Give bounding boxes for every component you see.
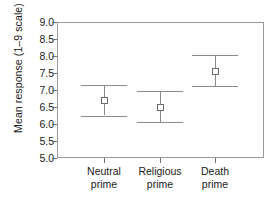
- y-tick-label: 6.0: [22, 119, 54, 130]
- y-tick-label: 5.5: [22, 136, 54, 147]
- y-tick-label: 7.5: [22, 68, 54, 79]
- plot-area-frame: [57, 22, 264, 158]
- y-tick-label: 7.0: [22, 85, 54, 96]
- data-point-marker: [101, 97, 108, 104]
- y-tick-label: 6.5: [22, 102, 54, 113]
- chart-figure: Mean response (1–9 scale) 9.0 8.5 8.0 7.…: [0, 0, 280, 201]
- x-tick-label-line: prime: [175, 178, 255, 191]
- x-tick-mark: [215, 158, 216, 163]
- y-tick-label: 9.0: [22, 17, 54, 28]
- y-tick-label: 8.5: [22, 34, 54, 45]
- error-bar-cap-lower: [137, 122, 183, 123]
- y-axis-tick-labels: 9.0 8.5 8.0 7.5 7.0 6.5 6.0 5.5 5.0: [22, 0, 54, 201]
- x-tick-mark: [160, 158, 161, 163]
- error-bar-cap-lower: [192, 86, 238, 87]
- error-bar-cap-upper: [81, 85, 127, 86]
- y-tick-label: 5.0: [22, 153, 54, 164]
- x-tick-label-death-prime: Death prime: [175, 165, 255, 191]
- error-bar-cap-upper: [137, 91, 183, 92]
- x-tick-label-line: Death: [175, 165, 255, 178]
- x-tick-mark: [104, 158, 105, 163]
- error-bar-cap-lower: [81, 116, 127, 117]
- error-bar-cap-upper: [192, 55, 238, 56]
- data-point-marker: [157, 104, 164, 111]
- data-point-marker: [212, 68, 219, 75]
- y-tick-mark: [52, 158, 57, 159]
- y-tick-label: 8.0: [22, 51, 54, 62]
